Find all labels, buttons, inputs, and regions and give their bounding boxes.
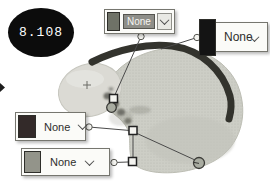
structure-select-bottom-left[interactable]: None bbox=[21, 148, 110, 176]
dropdown-button-top[interactable] bbox=[157, 13, 172, 30]
structure-select-top[interactable]: None bbox=[104, 9, 175, 34]
stage-badge-value: 8.108 bbox=[19, 25, 63, 40]
marker-circle-1[interactable] bbox=[107, 103, 117, 113]
edge-sliver bbox=[0, 83, 5, 92]
marker-square-3[interactable] bbox=[129, 158, 137, 166]
marker-square-1[interactable] bbox=[110, 95, 118, 103]
structure-select-right[interactable]: None bbox=[199, 22, 268, 52]
marker-circle-2[interactable] bbox=[194, 158, 205, 169]
chevron-down-icon[interactable] bbox=[85, 156, 95, 166]
color-chip-right[interactable] bbox=[199, 19, 216, 56]
structure-select-bottom-left-value: None bbox=[50, 156, 76, 168]
structure-select-top-value: None bbox=[124, 15, 154, 28]
color-chip-mid-left[interactable] bbox=[18, 115, 36, 138]
chevron-down-icon bbox=[159, 15, 169, 25]
structure-select-mid-left-value: None bbox=[44, 121, 70, 133]
color-chip-top[interactable] bbox=[107, 12, 120, 31]
stage-badge: 8.108 bbox=[8, 8, 74, 57]
marker-square-2[interactable] bbox=[129, 127, 137, 135]
body-shading bbox=[145, 116, 235, 164]
annotation-viewer: 8.108 None None None None bbox=[0, 0, 270, 182]
structure-select-mid-left[interactable]: None bbox=[15, 112, 86, 141]
structure-select-right-value: None bbox=[224, 30, 253, 44]
color-chip-bottom-left[interactable] bbox=[24, 151, 41, 173]
